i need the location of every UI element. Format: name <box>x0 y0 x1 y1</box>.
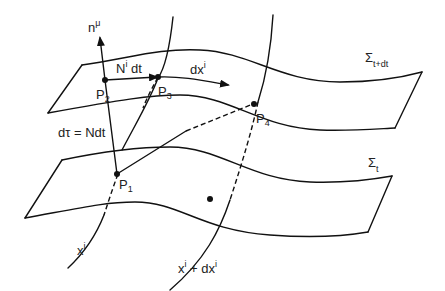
shift-label: Ni dt <box>116 59 142 76</box>
p3-label: P3 <box>158 84 172 101</box>
coordinate-line-xi-plus-dxi <box>170 15 273 290</box>
p3-dashed <box>143 77 158 108</box>
coordinate-line-xi <box>68 17 173 268</box>
displacement-label: dxi <box>190 60 206 77</box>
shift-vector-arrow <box>105 77 157 80</box>
p1-p4-dashed <box>186 104 253 131</box>
xi-label: xi <box>77 241 86 258</box>
point-p2 <box>102 77 108 83</box>
p4-label: P4 <box>256 111 270 128</box>
normal-vector-arrow <box>100 38 105 80</box>
p1-p4-line <box>117 131 186 174</box>
p1-label: P1 <box>119 177 133 194</box>
displacement-vector-arrow <box>158 77 228 85</box>
sigma-t-label: Σt <box>368 155 379 174</box>
point-lower-intersection <box>207 196 213 202</box>
proper-time-label: dτ = Ndt <box>58 125 106 140</box>
surface-sigma-t <box>25 147 392 236</box>
point-p4 <box>251 101 257 107</box>
sigma-t-plus-dt-label: Σt+dt <box>365 50 389 69</box>
adm-foliation-diagram: nμ Ni dt dxi P2 P3 P4 P1 dτ = Ndt Σt+dt … <box>0 0 445 291</box>
point-p3 <box>155 74 161 80</box>
normal-label: nμ <box>88 18 100 35</box>
p2-label: P2 <box>96 87 110 104</box>
xi-plus-dxi-label: xi + dxi <box>178 259 217 276</box>
